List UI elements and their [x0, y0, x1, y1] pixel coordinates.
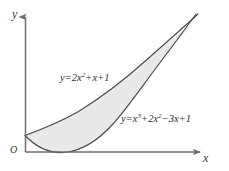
equation-label-parabola: y=2x2+x+1: [60, 73, 109, 84]
graph-canvas: [0, 0, 229, 171]
eq2-term4: 1: [186, 113, 191, 124]
equation-label-cubic: y=x3+2x2−3x+1: [121, 114, 191, 125]
eq1-equals: =: [65, 72, 72, 83]
eq2-lhs: y: [121, 113, 126, 124]
eq2-op4: +: [179, 113, 186, 124]
x-axis-label: x: [203, 152, 208, 164]
shaded-region: [25, 24, 194, 153]
origin-label: O: [10, 145, 17, 155]
eq2-term3-var: x: [174, 113, 179, 124]
eq1-term3: 1: [104, 72, 109, 83]
eq1-lhs: y: [60, 72, 65, 83]
eq2-op3: −: [162, 113, 169, 124]
y-axis-label: y: [12, 8, 17, 20]
eq2-equals: =: [126, 113, 133, 124]
math-figure: y x O y=2x2+x+1 y=x3+2x2−3x+1: [0, 0, 229, 171]
